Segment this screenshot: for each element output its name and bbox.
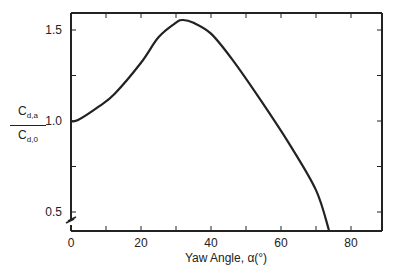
data-curve — [71, 20, 329, 230]
tick-labels: 0204060800.51.01.5 — [45, 23, 358, 250]
plot-frame — [66, 13, 382, 231]
fraction-bar — [10, 125, 46, 126]
y-axis-title-numerator: Cd,a — [10, 104, 46, 123]
x-tick-label: 0 — [68, 236, 75, 250]
y-axis-title: Cd,a Cd,0 — [10, 104, 46, 148]
x-tick-label: 80 — [344, 236, 358, 250]
ticks — [71, 13, 382, 231]
x-tick-label: 40 — [204, 236, 218, 250]
chart: 0204060800.51.01.5 Yaw Angle, α(°) — [0, 0, 397, 280]
y-axis-title-denominator: Cd,0 — [10, 128, 46, 147]
x-tick-label: 20 — [134, 236, 148, 250]
x-axis-title: Yaw Angle, α(°) — [185, 251, 267, 265]
x-tick-label: 60 — [274, 236, 288, 250]
y-tick-label: 1.0 — [45, 114, 62, 128]
y-tick-label: 1.5 — [45, 23, 62, 37]
y-tick-label: 0.5 — [45, 205, 62, 219]
